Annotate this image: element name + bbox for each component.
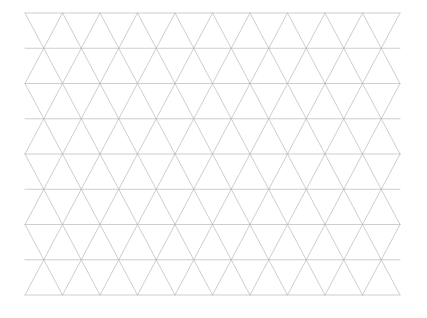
canvas-background xyxy=(0,0,427,318)
triangular-grid xyxy=(0,0,427,318)
drawing-canvas xyxy=(0,0,427,318)
